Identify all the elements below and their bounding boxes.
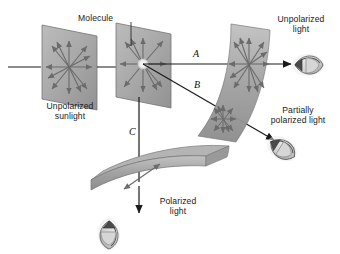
unpolarized-light-line1: Unpolarized	[278, 14, 325, 24]
unpolarized-sunlight-line2: sunlight	[55, 111, 85, 121]
ray-b-label: B	[194, 79, 200, 90]
eye-polarized	[98, 218, 120, 250]
polarized-light-line2: light	[170, 206, 186, 216]
ray-c-label: C	[129, 126, 136, 137]
partially-polarized-line2: polarized light	[271, 115, 326, 125]
unpolarized-sunlight-plane	[42, 25, 97, 110]
molecule-scattering-plane	[116, 23, 171, 108]
partially-polarized-line1: Partially	[282, 105, 313, 115]
polarized-light-label: Polarized light	[146, 196, 210, 216]
unpolarized-light-line2: light	[293, 24, 309, 34]
ray-a-label: A	[193, 48, 199, 59]
polarized-light-surface	[91, 145, 229, 190]
molecule-text: Molecule	[78, 13, 113, 23]
eye-unpolarized	[292, 54, 324, 76]
polarization-scattering-figure: Unpolarized sunlight Molecule Unpolarize…	[0, 0, 340, 254]
molecule-label: Molecule	[78, 13, 138, 23]
partially-polarized-light-label: Partially polarized light	[256, 105, 340, 125]
unpolarized-sunlight-label: Unpolarized sunlight	[29, 101, 111, 121]
unpolarized-light-label: Unpolarized light	[265, 14, 337, 34]
polarized-light-line1: Polarized	[160, 196, 197, 206]
unpolarized-sunlight-line1: Unpolarized	[47, 101, 94, 111]
